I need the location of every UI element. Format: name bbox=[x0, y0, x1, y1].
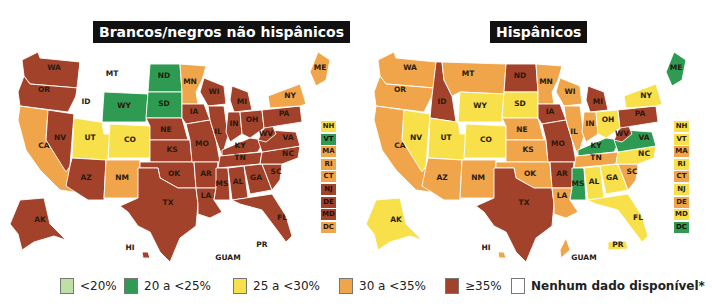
map-title: Hispânicos bbox=[490, 21, 587, 43]
state-label-ga: GA bbox=[606, 173, 618, 182]
state-label-mo: MO bbox=[195, 139, 209, 148]
state-label-mi: MI bbox=[593, 97, 603, 106]
state-label-tx: TX bbox=[163, 198, 174, 207]
state-ak bbox=[10, 198, 66, 250]
state-label-ar: AR bbox=[200, 169, 212, 178]
state-label-ok: OK bbox=[524, 169, 537, 178]
state-label-il: IL bbox=[570, 127, 578, 136]
state-label-hi: HI bbox=[481, 243, 490, 252]
state-label-wi: WI bbox=[208, 87, 219, 96]
state-label-in: IN bbox=[229, 119, 238, 128]
sidebar-state-nh: NH bbox=[674, 121, 689, 132]
sidebar-state-dc: DC bbox=[674, 222, 689, 233]
state-label-oh: OH bbox=[246, 115, 259, 124]
state-label-va: VA bbox=[282, 133, 293, 142]
state-label-il: IL bbox=[214, 127, 222, 136]
state-label-az: AZ bbox=[436, 173, 448, 182]
sidebar-state-vt: VT bbox=[674, 134, 689, 145]
state-label-ut: UT bbox=[84, 133, 96, 142]
state-label-nd: ND bbox=[158, 71, 171, 80]
state-label-nm: NM bbox=[115, 173, 129, 182]
state-label-ms: MS bbox=[216, 179, 229, 188]
sidebar-state-vt: VT bbox=[321, 134, 336, 145]
state-label-az: AZ bbox=[80, 173, 92, 182]
sidebar-state-ma: MA bbox=[321, 146, 336, 157]
state-label-ne: NE bbox=[160, 125, 171, 134]
legend-item-lt20: <20% bbox=[60, 276, 117, 296]
state-label-ky: KY bbox=[590, 141, 602, 150]
legend-label: Nenhum dado disponível* bbox=[531, 279, 705, 293]
state-label-mn: MN bbox=[183, 77, 197, 86]
state-label-va: VA bbox=[638, 133, 649, 142]
sidebar-state-md: MD bbox=[674, 209, 689, 220]
state-label-pa: PA bbox=[635, 109, 646, 118]
state-label-ar: AR bbox=[556, 169, 568, 178]
legend-label: 30 a <35% bbox=[359, 279, 426, 293]
state-label-ok: OK bbox=[168, 169, 181, 178]
state-label-or: OR bbox=[38, 85, 50, 94]
state-label-tn: TN bbox=[234, 153, 245, 162]
state-label-id: ID bbox=[437, 97, 446, 106]
state-label-sc: SC bbox=[627, 167, 638, 176]
state-label-mi: MI bbox=[237, 97, 247, 106]
state-label-nv: NV bbox=[410, 133, 422, 142]
state-label-pa: PA bbox=[279, 109, 290, 118]
state-label-nd: ND bbox=[514, 71, 527, 80]
state-label-fl: FL bbox=[277, 213, 287, 222]
state-label-guam: GUAM bbox=[215, 253, 240, 262]
state-label-ny: NY bbox=[284, 91, 296, 100]
state-label-wv: WV bbox=[259, 129, 273, 138]
state-label-oh: OH bbox=[602, 115, 615, 124]
sidebar-state-ri: RI bbox=[674, 159, 689, 170]
state-hi bbox=[498, 252, 506, 258]
legend-swatch bbox=[445, 278, 459, 294]
state-label-ia: IA bbox=[546, 107, 555, 116]
state-ak bbox=[366, 198, 422, 250]
legend-swatch bbox=[60, 278, 74, 294]
sidebar-state-nj: NJ bbox=[321, 184, 336, 195]
sidebar-state-md: MD bbox=[321, 209, 336, 220]
state-label-ms: MS bbox=[572, 179, 585, 188]
sidebar-state-ma: MA bbox=[674, 146, 689, 157]
state-label-ks: KS bbox=[166, 145, 177, 154]
state-label-co: CO bbox=[480, 135, 492, 144]
state-guam bbox=[204, 238, 214, 258]
state-label-in: IN bbox=[585, 119, 594, 128]
state-mt bbox=[86, 62, 150, 96]
state-label-al: AL bbox=[233, 177, 244, 186]
state-label-la: LA bbox=[557, 191, 568, 200]
state-label-nm: NM bbox=[471, 173, 485, 182]
sidebar-state-ct: CT bbox=[674, 171, 689, 182]
legend-item-ge35: ≥35% bbox=[445, 276, 502, 296]
state-mt bbox=[442, 62, 506, 96]
state-label-ks: KS bbox=[522, 145, 533, 154]
state-label-mn: MN bbox=[539, 77, 553, 86]
state-label-sc: SC bbox=[271, 167, 282, 176]
state-hi bbox=[142, 252, 150, 258]
state-guam bbox=[560, 238, 570, 258]
sidebar-state-ct: CT bbox=[321, 171, 336, 182]
legend-item-30to35: 30 a <35% bbox=[339, 276, 426, 296]
map-panel-hispanic: WAORCANVIDMTWYUTCOAZNMNDSDNEKSOKTXMNIAMO… bbox=[356, 0, 712, 265]
legend-swatch bbox=[233, 278, 247, 294]
legend-item-20to25: 20 a <25% bbox=[124, 276, 211, 296]
state-label-me: ME bbox=[314, 63, 327, 72]
state-label-pr: PR bbox=[256, 240, 267, 249]
state-label-ak: AK bbox=[390, 215, 403, 224]
legend-swatch bbox=[124, 278, 138, 294]
sidebar-state-ri: RI bbox=[321, 159, 336, 170]
state-label-id: ID bbox=[81, 97, 90, 106]
state-label-sd: SD bbox=[158, 99, 170, 108]
map-panel-non-hispanic: WAORCANVIDMTWYUTCOAZNMNDSDNEKSOKTXMNIAMO… bbox=[0, 0, 356, 265]
state-label-nc: NC bbox=[638, 149, 650, 158]
state-label-ky: KY bbox=[234, 141, 246, 150]
state-label-sd: SD bbox=[514, 99, 526, 108]
state-label-ut: UT bbox=[440, 133, 452, 142]
state-label-hi: HI bbox=[125, 243, 134, 252]
legend-label: 25 a <30% bbox=[253, 279, 320, 293]
state-label-al: AL bbox=[589, 177, 600, 186]
state-label-ne: NE bbox=[516, 125, 527, 134]
state-label-ga: GA bbox=[250, 173, 262, 182]
legend-label: 20 a <25% bbox=[144, 279, 211, 293]
map-title: Brancos/negros não hispânicos bbox=[93, 21, 350, 43]
